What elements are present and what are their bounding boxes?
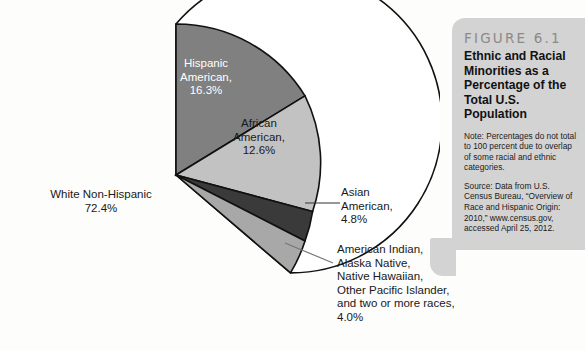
pie-label-african-american: African American, 12.6%	[217, 117, 301, 158]
pie-label-asian-american: Asian American, 4.8%	[341, 186, 427, 227]
figure-source: Source: Data from U.S. Census Bureau, “O…	[464, 181, 577, 234]
figure-caption-panel: FIGURE 6.1 Ethnic and Racial Minorities …	[452, 18, 585, 250]
pie-label-white-non-hispanic: White Non-Hispanic 72.4%	[36, 188, 166, 215]
pie-label-hispanic-american: Hispanic American, 16.3%	[163, 57, 249, 98]
figure-note: Note: Percentages do not total to 100 pe…	[464, 131, 577, 173]
figure-number: FIGURE 6.1	[464, 30, 577, 46]
pie-chart-figure: Hispanic American, 16.3% African America…	[0, 0, 440, 351]
figure-title: Ethnic and Racial Minorities as a Percen…	[464, 49, 577, 122]
